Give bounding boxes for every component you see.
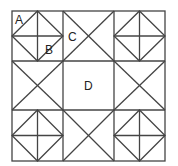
edge-block-left (12, 61, 63, 110)
corner-block-top-right (114, 11, 165, 61)
quilt-block-diagram: A B C D (0, 0, 178, 166)
label-d: D (84, 79, 93, 93)
label-c: C (68, 30, 77, 44)
edge-block-bottom (63, 110, 114, 161)
corner-block-bottom-left (12, 110, 63, 161)
corner-block-bottom-right (114, 110, 165, 161)
edge-block-right (114, 61, 165, 110)
label-b: B (45, 43, 53, 57)
label-a: A (15, 13, 23, 27)
